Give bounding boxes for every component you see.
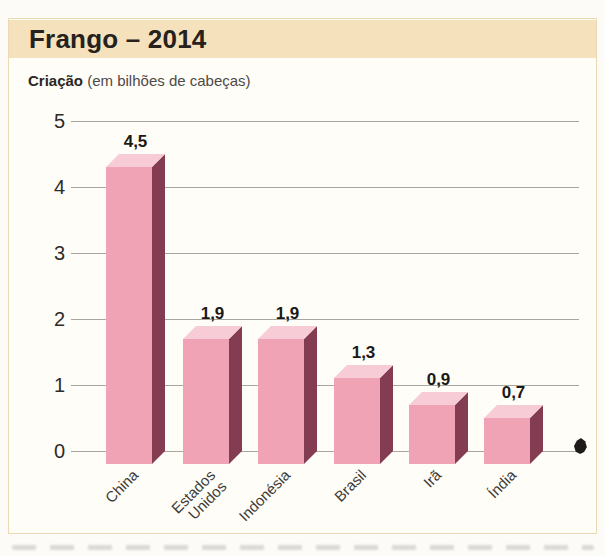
bar-brasil bbox=[334, 365, 393, 464]
y-axis-tick-label-1: 1 bbox=[25, 374, 65, 396]
bar-front-face bbox=[106, 167, 152, 464]
y-axis-tick-label-2: 2 bbox=[25, 308, 65, 330]
category-label-china: China bbox=[24, 467, 141, 556]
bar-side-face bbox=[304, 326, 317, 464]
bar-indonesia bbox=[258, 326, 317, 464]
bar-front-face bbox=[334, 378, 380, 464]
bar-value-label-india: 0,7 bbox=[482, 383, 545, 403]
page-caption-cutoff bbox=[12, 545, 594, 550]
bar-side-face bbox=[229, 326, 242, 464]
bar-front-face bbox=[258, 339, 304, 464]
gridline-y-5 bbox=[71, 121, 579, 122]
bar-value-label-indonesia: 1,9 bbox=[256, 304, 319, 324]
y-axis-tick-label-0: 0 bbox=[25, 440, 65, 462]
bar-side-face bbox=[380, 365, 393, 464]
bar-front-face bbox=[409, 405, 455, 464]
bar-value-label-estados-unidos: 1,9 bbox=[181, 304, 244, 324]
y-axis-tick-label-3: 3 bbox=[25, 242, 65, 264]
bar-value-label-brasil: 1,3 bbox=[332, 343, 395, 363]
bar-side-face bbox=[152, 154, 165, 464]
chart-card: Frango – 2014 Criação (em bilhões de cab… bbox=[8, 18, 597, 534]
bar-india bbox=[484, 405, 543, 464]
y-axis-tick-label-4: 4 bbox=[25, 176, 65, 198]
bar-value-label-ira: 0,9 bbox=[407, 370, 470, 390]
bar-china bbox=[106, 154, 165, 464]
bar-front-face bbox=[183, 339, 229, 464]
bar-estados-unidos bbox=[183, 326, 242, 464]
bar-front-face bbox=[484, 418, 530, 464]
bar-chart-plot-area: 0123454,5China1,9Estados Unidos1,9Indoné… bbox=[9, 19, 596, 533]
y-axis-tick-label-5: 5 bbox=[25, 110, 65, 132]
bar-ira bbox=[409, 392, 468, 464]
bar-value-label-china: 4,5 bbox=[104, 132, 167, 152]
